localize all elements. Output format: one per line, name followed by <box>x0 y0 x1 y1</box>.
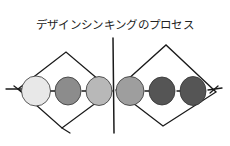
stage-circle-5 <box>149 77 175 105</box>
stage-circle-6 <box>180 77 206 106</box>
double-diamond-diagram <box>0 0 230 146</box>
center-divider-line <box>113 38 114 133</box>
stage-circle-1 <box>22 76 51 106</box>
stage-circle-4 <box>116 77 144 106</box>
stage-circle-2 <box>55 77 81 105</box>
stage-circle-3 <box>86 77 112 106</box>
